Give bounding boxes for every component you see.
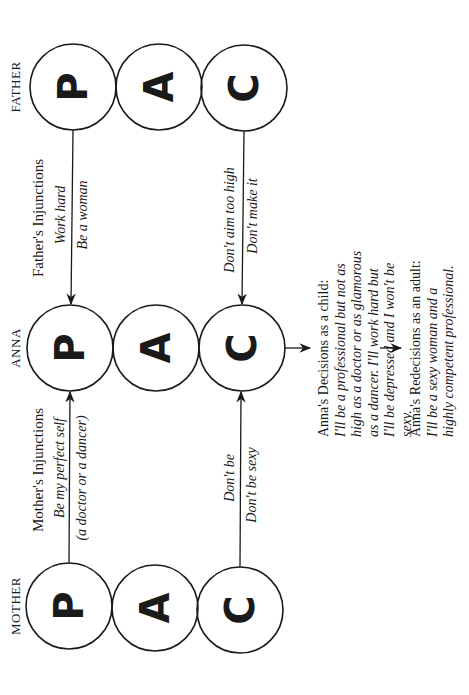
mother-label: MOTHER	[9, 577, 22, 635]
father-parent-letter: P	[53, 72, 93, 101]
decisions-line-3: as a dancer. I'll work hard but	[366, 251, 383, 437]
anna-adult-letter: A	[136, 333, 176, 364]
mother-child-message-2: Don't be sexy	[245, 447, 259, 522]
mother-parent-letter: P	[49, 591, 89, 620]
decisions-line-1: I'll be a professional but not as	[333, 251, 350, 437]
redecisions-title: Anna's Redecisions as an adult:	[408, 260, 425, 437]
father-adult-letter: A	[139, 72, 179, 103]
anna-parent-letter: P	[50, 333, 90, 362]
anna-decisions-block: Anna's Decisions as a child: I'll be a p…	[316, 251, 415, 437]
anna-child-letter: C	[222, 333, 262, 362]
father-label: FATHER	[9, 61, 22, 112]
mother-child-letter: C	[220, 595, 260, 624]
anna-redecisions-block: Anna's Redecisions as an adult: I'll be …	[408, 260, 458, 437]
father-parent-message-2: Be a woman	[76, 180, 90, 249]
father-child-message-1: Don't aim too high	[223, 167, 237, 272]
anna-label: ANNA	[9, 328, 22, 368]
father-injunctions-heading: Father's Injunctions	[31, 159, 46, 277]
redecisions-line-1: I'll be a sexy woman and a	[425, 260, 442, 437]
mother-injunctions-heading: Mother's Injunctions	[31, 408, 46, 532]
mother-child-to-anna-child-arrow	[240, 392, 241, 567]
mother-parent-message-2: (a doctor or a dancer)	[75, 415, 89, 540]
mother-child-message-1: Don't be	[223, 454, 237, 502]
father-parent-to-anna-parent-arrow	[71, 130, 73, 304]
father-parent-message-1: Work hard	[54, 186, 68, 244]
father-child-message-2: Don't make it	[246, 178, 260, 253]
decisions-line-2: high as a doctor or as glamorous	[349, 251, 366, 437]
decisions-line-4: I'll be depressed and I won't be	[382, 251, 399, 437]
mother-parent-message-1: Be my perfect self	[53, 418, 67, 518]
redecisions-line-2: highly competent professional.	[441, 260, 458, 437]
father-child-letter: C	[224, 73, 264, 102]
mother-adult-letter: A	[135, 593, 175, 624]
mother-parent-to-anna-parent-arrow	[69, 392, 70, 563]
father-child-to-anna-child-arrow	[242, 131, 244, 304]
decisions-title: Anna's Decisions as a child:	[316, 251, 333, 437]
